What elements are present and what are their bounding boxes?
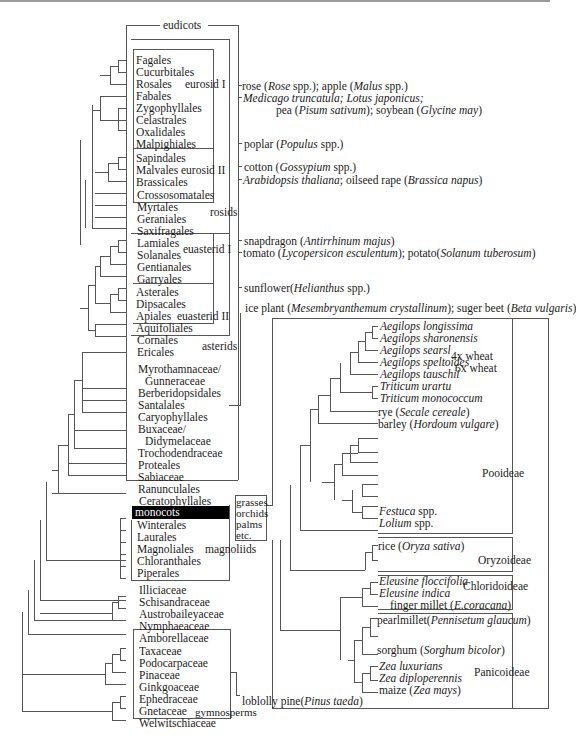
grass-taxon-maize: maize (Zea mays)	[379, 684, 461, 696]
species-note-pine: loblolly pine(Pinus taeda)	[242, 695, 363, 707]
grass-taxon: Eleusine floccifolia	[379, 575, 468, 587]
taxon: Chloranthales	[137, 555, 201, 567]
grass-taxon: Zea diploperennis	[379, 672, 462, 684]
taxon: Asterales	[136, 286, 179, 298]
taxon: Amborellaceae	[139, 632, 209, 644]
taxon: Podocarpaceae	[139, 657, 208, 669]
species-note-iceplant: ice plant (Mesembryanthemum crystallinum…	[245, 302, 576, 314]
species-note-medicago: Medicago truncatula; Lotus japonicus;	[243, 92, 423, 104]
taxon: Garryales	[137, 273, 182, 285]
clade-label-chloridoideae: Chloridoideae	[463, 580, 528, 592]
taxon: Berberidopsidales	[138, 387, 221, 399]
taxon: Rosales	[136, 78, 172, 90]
clade-label-eudicots: eudicots	[163, 19, 201, 31]
taxon: Geraniales	[137, 213, 186, 225]
taxon: Austrobaileyaceae	[139, 608, 224, 620]
clade-label-monocots: monocots	[132, 506, 180, 519]
taxon: Santalales	[138, 399, 185, 411]
clade-label-euasterid2: euasterid II	[177, 310, 229, 322]
clade-label-eurosid1: eurosid I	[185, 78, 226, 90]
species-note-pea: pea (Pisum sativum); soybean (Glycine ma…	[276, 104, 482, 116]
species-note-snapdragon: snapdragon (Antirrhinum majus)	[244, 235, 395, 247]
grass-taxon-finger-millet: finger millet (E.coracana)	[390, 599, 511, 611]
grass-taxon-pearl-millet: pearlmillet(Pennisetum glaucum)	[377, 614, 531, 626]
clade-label-pooideae: Pooideae	[482, 467, 524, 479]
species-note-cotton: cotton (Gossypium spp.)	[244, 161, 356, 173]
taxon: Ranunculales	[138, 483, 200, 495]
monocot-example: etc.	[236, 529, 252, 541]
taxon: Proteales	[138, 459, 180, 471]
taxon: Solanales	[137, 249, 181, 261]
ploidy-label-6x: 6x wheat	[455, 362, 497, 374]
grass-taxon: Aegilops sharonensis	[380, 332, 478, 344]
grass-taxon: Eleusine indica	[379, 587, 450, 599]
taxon: Malvales	[136, 164, 178, 176]
taxon: Brassicales	[136, 176, 188, 188]
taxon: Piperales	[137, 567, 179, 579]
grass-taxon: Aegilops searsl	[380, 344, 451, 356]
clade-label-rosids: rosids	[210, 206, 237, 218]
taxon: Pinaceae	[139, 669, 180, 681]
taxon: Cucurbitales	[136, 66, 194, 78]
taxon: Oxalidales	[136, 126, 185, 138]
taxon: Didymelaceae	[145, 435, 211, 447]
taxon: Buxaceae/	[138, 423, 186, 435]
taxon: Sapindales	[136, 152, 186, 164]
taxon: Gunneraceae	[145, 375, 205, 387]
ploidy-label-4x: 4x wheat	[451, 350, 493, 362]
taxon: Cornales	[137, 334, 178, 346]
grass-taxon-rice: rice (Oryza sativa)	[378, 540, 464, 552]
grass-taxon: Aegilops tauschii	[380, 368, 460, 380]
monocots-highlight: monocots	[132, 506, 229, 519]
taxon: Myrothamnaceae/	[138, 363, 221, 375]
species-note-arabidopsis: Arabidopsis thaliana; oilseed rape (Bras…	[243, 174, 482, 186]
taxon: Ephedraceae	[139, 693, 198, 705]
clade-label-gymnosperms: gymnosperms	[195, 706, 257, 718]
taxon: Trochodendraceae	[138, 447, 223, 459]
taxon: Zygophyllales	[136, 102, 202, 114]
taxon: Aquifoliales	[136, 322, 193, 334]
species-note-rose: rose (Rose spp.); apple (Malus spp.)	[242, 80, 408, 92]
taxon: Lamiales	[137, 237, 179, 249]
taxon: Crossosomatales	[137, 189, 214, 201]
taxon: Magnoliales	[137, 543, 194, 555]
grass-taxon-barley: barley (Hordoum vulgare)	[378, 418, 499, 430]
taxon: Taxaceae	[139, 645, 182, 657]
taxon: Gnetaceae	[139, 705, 187, 717]
taxon: Celastrales	[136, 114, 186, 126]
species-note-sunflower: sunflower(Helianthus spp.)	[244, 282, 370, 294]
clade-label-panicoideae: Panicoideae	[474, 666, 530, 678]
taxon: Fabales	[136, 90, 171, 102]
taxon: Ericales	[137, 346, 174, 358]
grass-taxon-sorghum: sorghum (Sorghum bicolor)	[377, 644, 505, 656]
grass-taxon: Zea luxurians	[379, 660, 443, 672]
taxon: Caryophyllales	[138, 411, 208, 423]
taxon: Saxifragales	[137, 225, 194, 237]
clade-label-eurosid2: eurosid II	[181, 164, 225, 176]
taxon: Laurales	[137, 531, 177, 543]
grass-taxon: Triticum monococcum	[380, 392, 483, 404]
taxon: Ginkgoaceae	[139, 681, 199, 693]
taxon: Welwitschiaceae	[139, 717, 216, 729]
grass-taxon-rye: rye (Secale cereale)	[378, 406, 470, 418]
taxon: Nymphaeaceae	[139, 620, 209, 632]
species-note-tomato: tomato (Lycopersicon esculentum); potato…	[243, 247, 535, 259]
grass-taxon: Triticum urartu	[380, 380, 451, 392]
taxon: Schisandraceae	[139, 596, 210, 608]
clade-label-euasterid1: euasterid I	[183, 243, 231, 255]
taxon: Fagales	[136, 54, 171, 66]
taxon: Malpighiales	[136, 138, 196, 150]
taxon: Sabiaceae	[138, 471, 184, 483]
clade-label-oryzoideae: Oryzoideae	[478, 554, 531, 566]
taxon: Myrtales	[137, 201, 178, 213]
clade-label-asterids: asterids	[202, 340, 237, 352]
taxon: Dipsacales	[136, 298, 186, 310]
taxon: Apiales	[136, 310, 171, 322]
species-note-poplar: poplar (Populus spp.)	[244, 138, 343, 150]
grass-taxon-lolium: Lolium spp.	[379, 517, 433, 529]
taxon: Winterales	[137, 519, 186, 531]
taxon: Gentianales	[137, 261, 191, 273]
grass-taxon: Aegilops longissima	[380, 320, 473, 332]
taxon: Illiciaceae	[139, 584, 186, 596]
grass-taxon-festuca: Festuca spp.	[379, 505, 437, 517]
